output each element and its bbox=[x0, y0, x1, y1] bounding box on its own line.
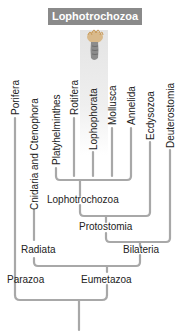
clade-label-radiata: Radiata bbox=[21, 244, 55, 255]
taxon-label-ecdysozoa: Ecdysozoa bbox=[145, 91, 156, 140]
taxon-label-porifera: Porifera bbox=[10, 80, 21, 115]
taxon-label-lophophorata: Lophophorata bbox=[88, 88, 99, 150]
clade-label-lophotrochozoa: Lophotrochozoa bbox=[47, 194, 119, 205]
taxon-label-cnidaria-ctenophora: Cnidaria and Ctenophora bbox=[29, 98, 40, 210]
clade-label-protostomia: Protostomia bbox=[79, 221, 132, 232]
taxon-label-platyhelminthes: Platyhelminthes bbox=[51, 94, 62, 165]
clade-label-eumetazoa: Eumetazoa bbox=[81, 274, 132, 285]
taxon-label-deuterostomia: Deuterostomia bbox=[165, 83, 176, 148]
clade-label-parazoa: Parazoa bbox=[7, 274, 44, 285]
clade-label-bilateria: Bilateria bbox=[123, 244, 159, 255]
taxon-label-annelida: Annelida bbox=[126, 86, 137, 125]
organism-illustration bbox=[87, 30, 103, 60]
taxon-label-rotifera: Rotifera bbox=[69, 80, 80, 115]
taxon-label-mollusca: Mollusca bbox=[107, 86, 118, 125]
